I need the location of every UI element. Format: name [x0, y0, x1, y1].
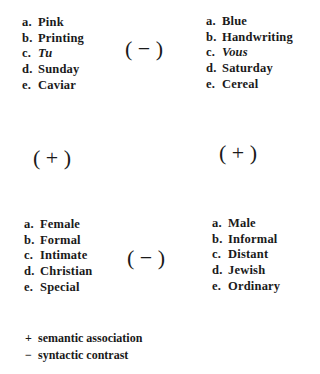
list-item-text: Cereal: [222, 77, 258, 91]
list-marker: b.: [206, 30, 222, 46]
list-item: e.Ordinary: [212, 279, 280, 295]
list-item-text: Jewish: [228, 263, 265, 277]
list-item-text: Printing: [38, 31, 84, 45]
list-item: b.Printing: [22, 31, 84, 47]
list-item-text: Ordinary: [228, 279, 280, 293]
legend-label: semantic association: [38, 331, 142, 345]
list-marker: e.: [24, 280, 40, 296]
legend-label: syntactic contrast: [38, 348, 128, 362]
list-marker: a.: [24, 217, 40, 233]
list-item: a.Female: [24, 217, 93, 233]
list-item-text: Christian: [40, 264, 93, 278]
bottom-left-word-list: a.Female b.Formal c.Intimate d.Christian…: [24, 217, 93, 296]
list-item-text: Sunday: [38, 62, 80, 76]
list-marker: b.: [22, 31, 38, 47]
list-marker: d.: [22, 62, 38, 78]
bottom-syntactic-contrast-sign: ( − ): [127, 247, 165, 269]
list-marker: b.: [24, 233, 40, 249]
list-item: b.Informal: [212, 232, 280, 248]
list-item-text: Tu: [38, 46, 53, 60]
list-item: a.Pink: [22, 15, 84, 31]
list-marker: a.: [212, 216, 228, 232]
legend-item-semantic: +semantic association: [25, 330, 142, 347]
top-left-word-list: a.Pink b.Printing c.Tu d.Sunday e.Caviar: [22, 15, 84, 94]
list-marker: b.: [212, 232, 228, 248]
list-item-text: Male: [228, 216, 256, 230]
list-item-text: Intimate: [40, 248, 87, 262]
left-semantic-association-sign: ( + ): [33, 147, 71, 169]
list-marker: d.: [206, 61, 222, 77]
list-item-text: Caviar: [38, 78, 76, 92]
list-item-text: Informal: [228, 232, 278, 246]
list-item: a.Blue: [206, 14, 293, 30]
top-syntactic-contrast-sign: ( − ): [125, 38, 163, 60]
legend: +semantic association −syntactic contras…: [25, 330, 142, 363]
list-item: c.Intimate: [24, 248, 93, 264]
list-item-text: Female: [40, 217, 80, 231]
list-item: b.Formal: [24, 233, 93, 249]
list-item: c.Distant: [212, 247, 280, 263]
list-marker: c.: [24, 248, 40, 264]
list-item: d.Sunday: [22, 62, 84, 78]
list-item: b.Handwriting: [206, 30, 293, 46]
top-right-word-list: a.Blue b.Handwriting c.Vous d.Saturday e…: [206, 14, 293, 93]
list-item-text: Pink: [38, 15, 64, 29]
right-semantic-association-sign: ( + ): [219, 142, 257, 164]
list-marker: e.: [206, 77, 222, 93]
list-marker: e.: [22, 78, 38, 94]
list-item-text: Distant: [228, 247, 268, 261]
list-marker: a.: [206, 14, 222, 30]
list-marker: c.: [212, 247, 228, 263]
list-marker: d.: [24, 264, 40, 280]
legend-item-syntactic: −syntactic contrast: [25, 347, 142, 364]
list-item-text: Vous: [222, 45, 248, 59]
list-item: c.Tu: [22, 46, 84, 62]
list-item-text: Blue: [222, 14, 247, 28]
list-marker: e.: [212, 279, 228, 295]
list-marker: c.: [206, 45, 222, 61]
list-item-text: Handwriting: [222, 30, 293, 44]
list-item: c.Vous: [206, 45, 293, 61]
list-item-text: Saturday: [222, 61, 273, 75]
list-item: d.Saturday: [206, 61, 293, 77]
list-marker: a.: [22, 15, 38, 31]
list-item: d.Jewish: [212, 263, 280, 279]
list-item: a.Male: [212, 216, 280, 232]
plus-icon: +: [25, 330, 38, 347]
bottom-right-word-list: a.Male b.Informal c.Distant d.Jewish e.O…: [212, 216, 280, 295]
minus-icon: −: [25, 347, 38, 364]
list-marker: d.: [212, 263, 228, 279]
list-item: e.Cereal: [206, 77, 293, 93]
list-item: d.Christian: [24, 264, 93, 280]
list-item: e.Caviar: [22, 78, 84, 94]
list-marker: c.: [22, 46, 38, 62]
list-item: e.Special: [24, 280, 93, 296]
list-item-text: Formal: [40, 233, 81, 247]
list-item-text: Special: [40, 280, 80, 294]
